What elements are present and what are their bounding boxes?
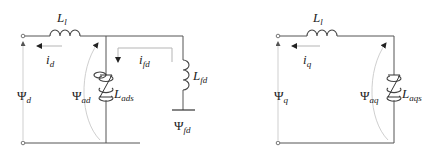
- field-flux-label: Ψfd: [174, 118, 191, 135]
- q-airgap-flux-arrow: [372, 43, 388, 140]
- q-leakage-inductor-coil: [307, 30, 337, 36]
- q-terminal-flux-label: Ψq: [274, 88, 289, 105]
- d-axis-circuit: Ll id Ψd Ψad Lads ifd Lfd Ψfd: [17, 10, 208, 145]
- d-airgap-flux-arrow: [84, 43, 100, 140]
- q-leakage-inductor-label: Ll: [312, 10, 323, 27]
- field-current-label: ifd: [139, 52, 150, 69]
- field-inductor-label: Lfd: [192, 68, 208, 85]
- d-terminal-flux-label: Ψd: [17, 88, 32, 105]
- d-airgap-flux-label: Ψad: [72, 88, 91, 105]
- field-inductor-coil: [183, 60, 189, 90]
- q-axis-circuit: Ll iq Ψq Ψaq Laqs: [274, 10, 422, 145]
- d-magnetizing-inductor-label: Lads: [113, 86, 134, 103]
- q-bottom-terminal: [276, 141, 280, 145]
- d-leakage-inductor-coil: [50, 30, 80, 36]
- d-leakage-inductor-label: Ll: [56, 10, 67, 27]
- q-top-terminal: [276, 34, 280, 38]
- q-current-label: iq: [303, 52, 312, 69]
- q-airgap-flux-label: Ψaq: [360, 88, 379, 105]
- d-current-label: id: [46, 52, 55, 69]
- d-top-terminal: [21, 34, 25, 38]
- q-saturation-mark: [388, 75, 400, 97]
- d-bottom-terminal: [21, 141, 25, 145]
- equivalent-circuit-diagram: Ll id Ψd Ψad Lads ifd Lfd Ψfd Ll iq Ψq Ψ…: [0, 0, 441, 152]
- q-magnetizing-inductor-label: Laqs: [401, 86, 422, 103]
